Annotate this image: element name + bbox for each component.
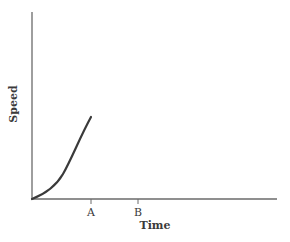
x-tick-label-a: A — [86, 206, 96, 219]
x-axis-title: Time — [139, 219, 170, 232]
y-axis-title: Speed — [7, 85, 20, 123]
x-tick-label-b: B — [134, 206, 142, 219]
speed-curve — [32, 117, 91, 199]
speed-time-chart: A B Time Speed — [0, 0, 290, 242]
